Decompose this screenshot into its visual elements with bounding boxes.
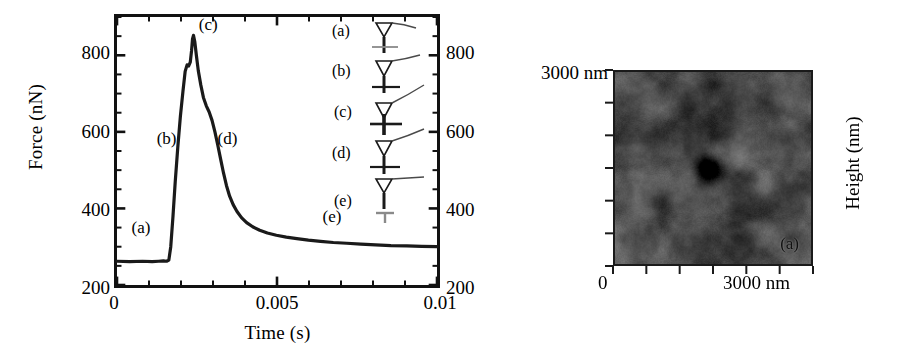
curve-annotation-b: (b) xyxy=(157,129,177,149)
afm-topography-panel: 3000 nm (a) 0 3000 nm Height (nm) xyxy=(520,0,897,361)
force-plot-frame: (a)(b)(c)(d)(e) (a) (b) (c) (d) (e) xyxy=(114,14,440,288)
ytick-label-right-600: 600 xyxy=(446,121,502,143)
inset-label-c: (c) xyxy=(334,103,352,121)
force-axis-title: Force (nN) xyxy=(25,47,47,207)
force-time-panel: Force (nN) 800 600 400 200 800 600 400 2… xyxy=(0,0,470,361)
inset-label-b: (b) xyxy=(332,62,351,80)
xtick-label-0: 0 xyxy=(109,292,119,314)
ytick-label-400: 400 xyxy=(54,199,110,221)
curve-annotation-c: (c) xyxy=(199,15,218,35)
inset-label-a: (a) xyxy=(332,22,350,40)
curve-annotation-a: (a) xyxy=(132,218,151,238)
inset-label-e: (e) xyxy=(334,192,352,210)
ytick-label-600: 600 xyxy=(54,121,110,143)
afm-axis-ticks xyxy=(520,0,897,361)
ytick-label-right-800: 800 xyxy=(446,42,502,64)
right-y-tick-labels: 800 600 400 200 xyxy=(446,14,508,288)
cantilever-inset: (a) (b) (c) (d) (e) xyxy=(332,19,437,227)
afm-x-min-label: 0 xyxy=(598,272,608,294)
afm-height-axis-title: Height (nm) xyxy=(842,83,864,243)
afm-x-max-label: 3000 nm xyxy=(723,272,790,294)
xtick-label-001: 0.01 xyxy=(423,292,456,314)
ytick-label-200: 200 xyxy=(54,277,110,299)
figure-root: Force (nN) 800 600 400 200 800 600 400 2… xyxy=(0,0,897,361)
ytick-label-800: 800 xyxy=(54,42,110,64)
left-y-tick-labels: 800 600 400 200 xyxy=(48,14,110,288)
inset-label-d: (d) xyxy=(332,144,351,162)
time-axis-title: Time (s) xyxy=(114,322,441,344)
xtick-label-0005: 0.005 xyxy=(256,292,299,314)
curve-annotation-d: (d) xyxy=(217,129,237,149)
ytick-label-right-400: 400 xyxy=(446,199,502,221)
x-tick-labels: 0 0.005 0.01 xyxy=(114,292,440,322)
